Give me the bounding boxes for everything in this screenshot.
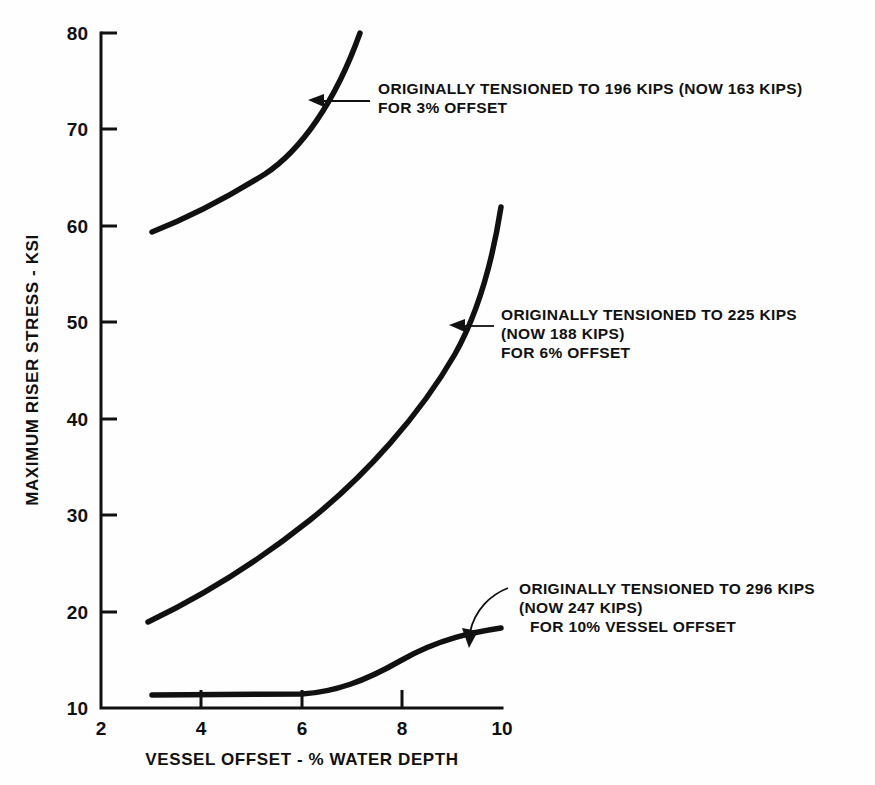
annotation-225-line-3: FOR 6% OFFSET: [501, 344, 631, 361]
chart-figure: 80 70 60 50 40 30 20 10 2 4 6 8 10 VESSE…: [0, 0, 875, 785]
chart-background: [0, 0, 875, 785]
x-tick-label-2: 2: [96, 718, 107, 739]
y-tick-label-40: 40: [67, 409, 88, 430]
y-tick-label-60: 60: [67, 216, 88, 237]
annotation-196-line-2: FOR 3% OFFSET: [378, 99, 508, 116]
y-tick-label-70: 70: [67, 119, 88, 140]
y-tick-label-80: 80: [67, 23, 88, 44]
annotation-196-line-1: ORIGINALLY TENSIONED TO 196 KIPS (NOW 16…: [378, 80, 802, 97]
y-tick-label-20: 20: [67, 602, 88, 623]
y-axis-title: MAXIMUM RISER STRESS - KSI: [23, 234, 42, 506]
y-tick-label-10: 10: [67, 698, 88, 719]
x-tick-label-8: 8: [397, 718, 408, 739]
y-tick-label-30: 30: [67, 505, 88, 526]
annotation-296-line-3: FOR 10% VESSEL OFFSET: [530, 618, 736, 635]
x-axis-title: VESSEL OFFSET - % WATER DEPTH: [145, 750, 458, 769]
x-tick-label-10: 10: [491, 718, 512, 739]
x-tick-label-6: 6: [297, 718, 308, 739]
annotation-225-line-2: (NOW 188 KIPS): [501, 325, 625, 342]
y-tick-label-50: 50: [67, 312, 88, 333]
annotation-296-line-1: ORIGINALLY TENSIONED TO 296 KIPS: [519, 580, 815, 597]
annotation-296-line-2: (NOW 247 KIPS): [519, 599, 643, 616]
riser-stress-chart: 80 70 60 50 40 30 20 10 2 4 6 8 10 VESSE…: [0, 0, 875, 785]
x-tick-label-4: 4: [196, 718, 207, 739]
annotation-225-line-1: ORIGINALLY TENSIONED TO 225 KIPS: [501, 306, 797, 323]
